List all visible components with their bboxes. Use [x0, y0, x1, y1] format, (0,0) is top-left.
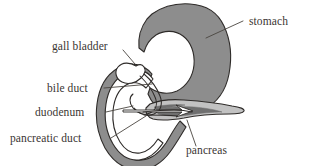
- label-pancreatic-duct: pancreatic duct: [10, 132, 82, 145]
- label-stomach: stomach: [249, 15, 288, 27]
- diagram-canvas: stomachgall bladderbile ductduodenumpanc…: [0, 0, 312, 166]
- label-pancreas: pancreas: [186, 144, 227, 157]
- label-gall-bladder: gall bladder: [52, 40, 108, 53]
- anatomy-diagram: stomachgall bladderbile ductduodenumpanc…: [0, 0, 312, 166]
- label-duodenum: duodenum: [35, 106, 84, 118]
- label-bile-duct: bile duct: [47, 82, 89, 94]
